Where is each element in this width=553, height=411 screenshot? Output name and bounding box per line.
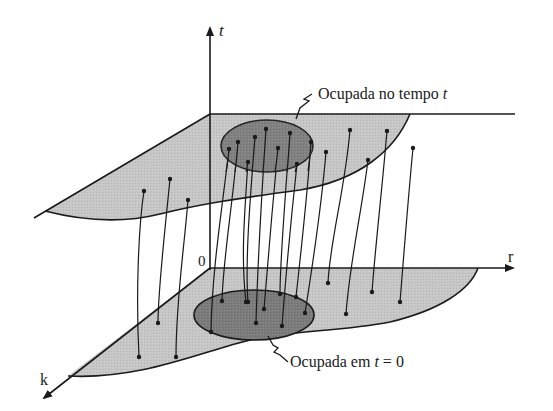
r-axis-label: r: [508, 249, 513, 265]
leader-bottom: [268, 336, 288, 362]
region-time-0-label: Ocupada em t = 0: [290, 354, 404, 370]
k-axis-label: k: [40, 372, 48, 388]
diagram-graphic: [0, 0, 553, 411]
origin-label: 0: [198, 254, 206, 269]
diagram-canvas: t r k 0 Ocupada no tempo t Ocupada em t …: [0, 0, 553, 411]
t-axis-label: t: [219, 22, 224, 39]
region-time-t-label: Ocupada no tempo t: [318, 86, 447, 102]
